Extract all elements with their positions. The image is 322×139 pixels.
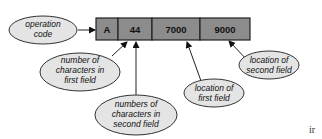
- svg-text:first field: first field: [198, 93, 230, 103]
- svg-text:numbers of: numbers of: [115, 99, 159, 109]
- cell-text: 7000: [165, 24, 186, 35]
- svg-text:number of: number of: [61, 55, 101, 65]
- label-operation-code: operation code: [9, 16, 77, 44]
- svg-text:characters in: characters in: [112, 109, 161, 119]
- svg-text:location of: location of: [250, 55, 290, 65]
- svg-text:operation: operation: [25, 19, 61, 29]
- label-chars-second-field: numbers of characters in second field: [95, 95, 177, 135]
- cell-text: A: [104, 24, 111, 35]
- svg-text:second field: second field: [246, 65, 292, 75]
- label-chars-first-field: number of characters in first field: [40, 53, 120, 91]
- svg-text:characters in: characters in: [56, 65, 105, 75]
- svg-text:code: code: [34, 29, 53, 39]
- cell-text: 9000: [214, 24, 235, 35]
- arrow-length-1: [112, 42, 127, 56]
- svg-text:location of: location of: [195, 83, 235, 93]
- arrow-address-1: [187, 42, 201, 81]
- footer-mark: ir: [309, 124, 315, 135]
- instruction-box: A 44 7000 9000: [96, 18, 250, 40]
- svg-text:first field: first field: [64, 75, 96, 85]
- label-location-first-field: location of first field: [184, 79, 244, 107]
- label-location-second-field: location of second field: [239, 51, 299, 79]
- cell-text: 44: [130, 24, 141, 35]
- instruction-format-diagram: A 44 7000 9000 operation code number of …: [0, 0, 322, 139]
- svg-text:second field: second field: [113, 119, 159, 129]
